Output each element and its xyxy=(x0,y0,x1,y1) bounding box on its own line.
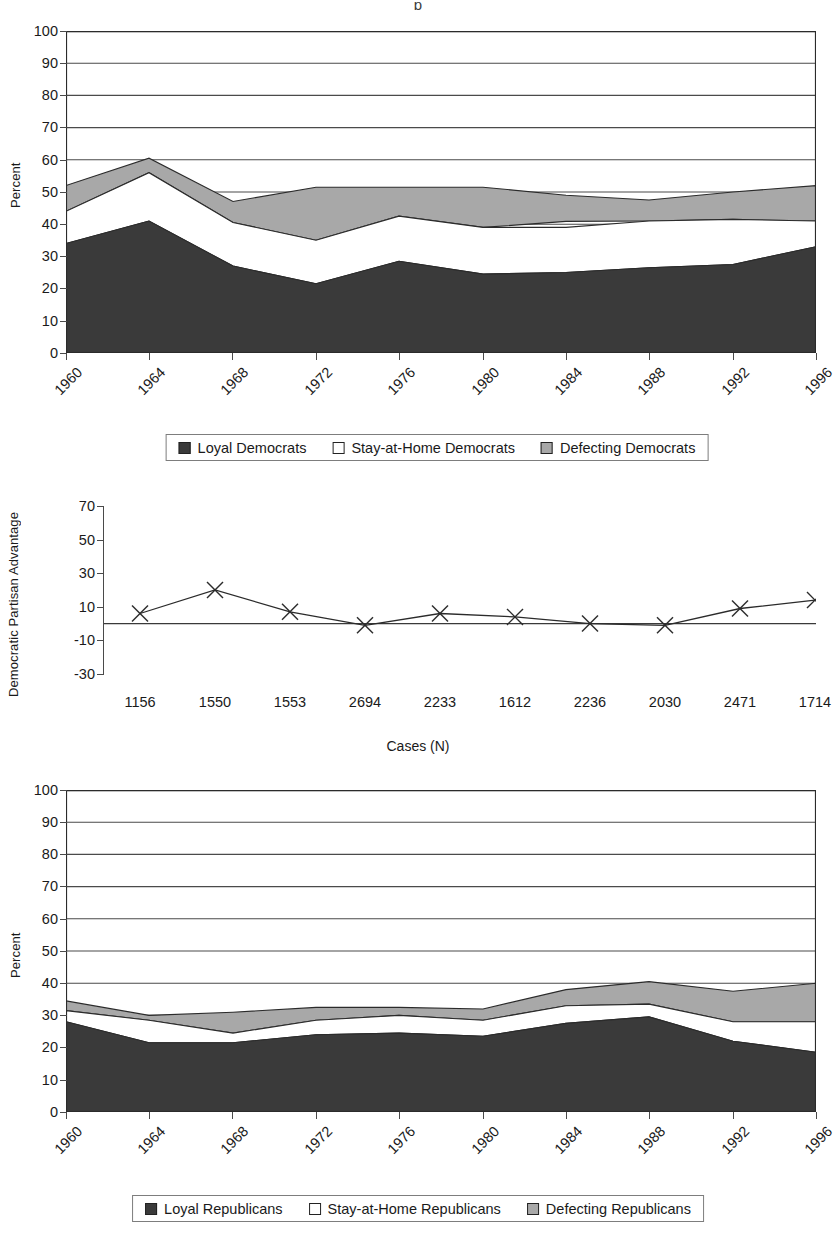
chart3-ytick-70: 70 xyxy=(18,879,58,894)
chart3-ytick-100: 100 xyxy=(18,783,58,798)
chart2-ytick-70: 70 xyxy=(50,499,95,514)
chart1-legend: Loyal Democrats Stay-at-Home Democrats D… xyxy=(166,434,709,461)
chart2-xtick-1714: 1714 xyxy=(799,694,831,710)
chart3-xtick-1960: 1960 xyxy=(39,1123,86,1170)
chart2-plot-background xyxy=(104,506,816,674)
chart3-ytick-20: 20 xyxy=(18,1040,58,1055)
legend-swatch-white-icon xyxy=(309,1203,321,1215)
chart-republicans-panel: Percent xyxy=(0,770,836,1249)
chart1-legend-label-1: Stay-at-Home Democrats xyxy=(351,440,515,456)
chart1-ytick-40: 40 xyxy=(18,217,58,232)
chart1-ytick-0: 0 xyxy=(18,346,58,361)
chart3-ytick-80: 80 xyxy=(18,847,58,862)
chart3-xtick-1992: 1992 xyxy=(706,1123,753,1170)
chart2-y-axis-label: Democratic Partisan Advantage xyxy=(6,490,21,720)
chart2-ytick-10: 10 xyxy=(50,600,95,615)
chart1-xtick-1964: 1964 xyxy=(122,364,169,411)
chart1-ytick-70: 70 xyxy=(18,120,58,135)
chart3-legend-label-2: Defecting Republicans xyxy=(546,1201,691,1217)
chart1-plot-area xyxy=(66,31,816,353)
chart2-xtick-2030: 2030 xyxy=(649,694,681,710)
chart3-xtick-1972: 1972 xyxy=(289,1123,336,1170)
chart1-xtick-1984: 1984 xyxy=(539,364,586,411)
chart3-legend-item-loyal-republicans: Loyal Republicans xyxy=(145,1201,283,1217)
chart2-xtick-2471: 2471 xyxy=(724,694,756,710)
chart2-ytick-neg30: -30 xyxy=(50,667,95,682)
chart3-legend-label-0: Loyal Republicans xyxy=(164,1201,283,1217)
legend-swatch-grey-icon xyxy=(541,442,553,454)
chart3-xtick-1976: 1976 xyxy=(372,1123,419,1170)
chart1-ytick-10: 10 xyxy=(18,314,58,329)
chart3-xtick-1968: 1968 xyxy=(205,1123,252,1170)
chart1-ytick-90: 90 xyxy=(18,56,58,71)
chart-partisan-advantage-panel: Democratic Partisan Advantage xyxy=(0,470,836,770)
chart2-plot-area xyxy=(104,506,816,674)
chart1-xtick-1980: 1980 xyxy=(456,364,503,411)
chart3-legend-item-stay-at-home-republicans: Stay-at-Home Republicans xyxy=(309,1201,501,1217)
chart3-plot-area xyxy=(66,790,816,1112)
chart3-xtick-1996: 1996 xyxy=(789,1123,836,1170)
chart3-ytick-40: 40 xyxy=(18,976,58,991)
chart3-legend: Loyal Republicans Stay-at-Home Republica… xyxy=(132,1195,704,1222)
chart1-xtick-1992: 1992 xyxy=(706,364,753,411)
chart1-ytick-50: 50 xyxy=(18,185,58,200)
chart3-xtick-1964: 1964 xyxy=(122,1123,169,1170)
chart3-xtick-1980: 1980 xyxy=(456,1123,503,1170)
legend-swatch-dark-icon xyxy=(145,1203,157,1215)
chart3-ytick-0: 0 xyxy=(18,1105,58,1120)
legend-swatch-grey-icon xyxy=(527,1203,539,1215)
chart2-y-axis-spine xyxy=(103,506,104,674)
chart2-ytick-neg10: -10 xyxy=(50,633,95,648)
chart3-legend-label-1: Stay-at-Home Republicans xyxy=(328,1201,501,1217)
chart3-svg xyxy=(66,790,816,1112)
chart2-xtick-1550: 1550 xyxy=(199,694,231,710)
chart2-xtick-2233: 2233 xyxy=(424,694,456,710)
chart1-xtick-1996: 1996 xyxy=(789,364,836,411)
chart2-xtick-2236: 2236 xyxy=(574,694,606,710)
chart1-legend-label-2: Defecting Democrats xyxy=(560,440,695,456)
chart3-ytick-10: 10 xyxy=(18,1073,58,1088)
chart3-ytick-90: 90 xyxy=(18,815,58,830)
chart1-xtick-1972: 1972 xyxy=(289,364,336,411)
chart1-svg xyxy=(66,31,816,353)
chart1-legend-item-defecting-democrats: Defecting Democrats xyxy=(541,440,695,456)
chart1-ytick-80: 80 xyxy=(18,88,58,103)
chart1-xtick-1960: 1960 xyxy=(39,364,86,411)
chart2-ytick-50: 50 xyxy=(50,532,95,547)
chart2-xtick-1553: 1553 xyxy=(274,694,306,710)
chart3-ytick-30: 30 xyxy=(18,1008,58,1023)
chart2-xtick-1156: 1156 xyxy=(124,694,155,710)
chart3-ytick-50: 50 xyxy=(18,944,58,959)
chart1-ytick-30: 30 xyxy=(18,249,58,264)
chart-democrats-panel: Percent xyxy=(0,0,836,470)
chart1-ytick-100: 100 xyxy=(18,24,58,39)
chart2-xtick-2694: 2694 xyxy=(349,694,381,710)
chart1-xtick-1968: 1968 xyxy=(205,364,252,411)
chart1-ytick-60: 60 xyxy=(18,153,58,168)
chart3-ytick-60: 60 xyxy=(18,912,58,927)
chart1-legend-label-0: Loyal Democrats xyxy=(198,440,307,456)
chart3-xtick-1984: 1984 xyxy=(539,1123,586,1170)
legend-swatch-dark-icon xyxy=(179,442,191,454)
legend-swatch-white-icon xyxy=(332,442,344,454)
chart2-xtick-1612: 1612 xyxy=(499,694,531,710)
chart2-svg xyxy=(104,506,816,674)
chart1-legend-item-loyal-democrats: Loyal Democrats xyxy=(179,440,307,456)
chart1-xtick-1976: 1976 xyxy=(372,364,419,411)
chart3-legend-item-defecting-republicans: Defecting Republicans xyxy=(527,1201,691,1217)
chart1-xtick-1988: 1988 xyxy=(622,364,669,411)
chart3-xtick-1988: 1988 xyxy=(622,1123,669,1170)
chart2-x-axis-title: Cases (N) xyxy=(386,738,449,754)
chart1-legend-item-stay-at-home-democrats: Stay-at-Home Democrats xyxy=(332,440,515,456)
chart1-ytick-20: 20 xyxy=(18,281,58,296)
chart2-ytick-30: 30 xyxy=(50,566,95,581)
